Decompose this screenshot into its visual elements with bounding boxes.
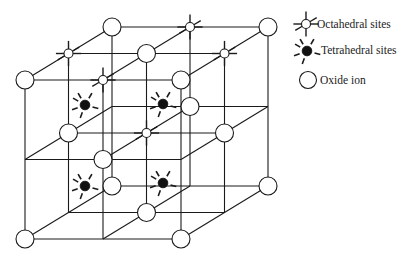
tetrahedral-site-dot (80, 100, 90, 110)
legend-label-tetrahedral: Tetrahedral sites (321, 44, 397, 56)
tetrahedral-spoke (315, 53, 321, 55)
octahedral-spoke (194, 21, 201, 25)
octahedral-spoke (72, 47, 79, 51)
tetrahedral-spoke (156, 92, 159, 97)
octahedral-spoke (228, 47, 235, 51)
lattice-canvas: Octahedral sites Tetrahedral sites Oxide… (0, 0, 406, 261)
octahedral-spoke (179, 29, 186, 33)
legend-tetrahedral-symbol (294, 39, 320, 64)
octahedral-site-circle (99, 76, 108, 85)
oxide-ion (181, 98, 199, 116)
octahedral-spoke (310, 18, 317, 22)
oxide-ion (103, 177, 121, 195)
tetrahedral-spoke (300, 39, 303, 44)
legend-label-octahedral: Octahedral sites (317, 18, 391, 30)
tetrahedral-spoke (73, 179, 78, 182)
tetrahedral-spoke (89, 93, 92, 98)
oxide-ion (138, 204, 156, 222)
octahedral-spoke (58, 56, 65, 60)
tetrahedral-site-dot (302, 46, 312, 56)
legend-oxide-symbol (300, 72, 317, 89)
tetrahedral-spoke (93, 188, 99, 190)
oxide-ion (103, 18, 121, 36)
tetrahedral-site-dot (158, 178, 168, 188)
oxide-ion (259, 18, 277, 36)
tetrahedral-spoke (302, 58, 304, 64)
tetrahedral-spoke (80, 193, 82, 199)
tetrahedral-spoke (72, 189, 78, 191)
tetrahedral-site (72, 93, 98, 118)
tetrahedral-spoke (93, 107, 99, 109)
octahedral-spoke (136, 135, 143, 139)
octahedral-site-circle (220, 49, 229, 58)
legend: Octahedral sites Tetrahedral sites Oxide… (293, 11, 397, 88)
oxide-ion (138, 45, 156, 63)
octahedral-spoke (214, 56, 221, 60)
oxide-ion (172, 71, 190, 89)
oxide-ion (60, 124, 78, 142)
octahedral-spoke (107, 74, 114, 78)
octahedral-spoke (92, 82, 99, 86)
legend-label-oxide: Oxide ion (320, 74, 366, 86)
tetrahedral-spoke (158, 190, 160, 196)
tetrahedral-spoke (78, 93, 81, 98)
tetrahedral-site-dot (80, 181, 90, 191)
octahedral-site-circle (186, 23, 195, 32)
oxide-ion (172, 230, 190, 248)
tetrahedral-site (150, 171, 176, 196)
legend-item-tetrahedral: Tetrahedral sites (294, 39, 397, 64)
legend-item-oxide: Oxide ion (300, 72, 366, 89)
tetrahedral-spoke (156, 171, 159, 176)
octahedral-site (56, 41, 81, 66)
tetrahedral-site (72, 174, 98, 199)
tetrahedral-spoke (151, 176, 156, 179)
oxide-ion (94, 151, 112, 169)
tetrahedral-spoke (151, 97, 156, 100)
octahedral-site-circle (302, 20, 311, 29)
octahedral-site-icon (293, 11, 318, 36)
oxide-ion-icon (300, 72, 317, 89)
octahedral-site-circle (64, 49, 73, 58)
oxide-ion (16, 71, 34, 89)
legend-octahedral-symbol (293, 11, 318, 36)
tetrahedral-site (150, 92, 176, 117)
tetrahedral-spoke (80, 112, 82, 118)
tetrahedral-spoke (78, 174, 81, 179)
tetrahedral-site-icon (294, 39, 320, 64)
tetrahedral-spoke (311, 39, 314, 44)
octahedral-spoke (295, 26, 302, 30)
oxide-ion (259, 177, 277, 195)
tetrahedral-spoke (73, 98, 78, 101)
octahedral-spoke (150, 127, 157, 131)
tetrahedral-spoke (158, 111, 160, 117)
tetrahedral-sites (72, 92, 176, 199)
tetrahedral-spoke (89, 174, 92, 179)
tetrahedral-spoke (295, 44, 300, 47)
octahedral-site-circle (142, 129, 151, 138)
tetrahedral-spoke (167, 92, 170, 97)
octahedral-site (134, 120, 159, 145)
oxide-ion (216, 124, 234, 142)
tetrahedral-spoke (72, 108, 78, 110)
octahedral-site (177, 14, 202, 39)
spinel-lattice-diagram: Octahedral sites Tetrahedral sites Oxide… (0, 0, 406, 261)
tetrahedral-spoke (167, 171, 170, 176)
oxide-ion (16, 230, 34, 248)
legend-item-octahedral: Octahedral sites (293, 11, 391, 36)
tetrahedral-spoke (294, 54, 300, 56)
tetrahedral-site-dot (158, 99, 168, 109)
octahedral-site (212, 41, 237, 66)
